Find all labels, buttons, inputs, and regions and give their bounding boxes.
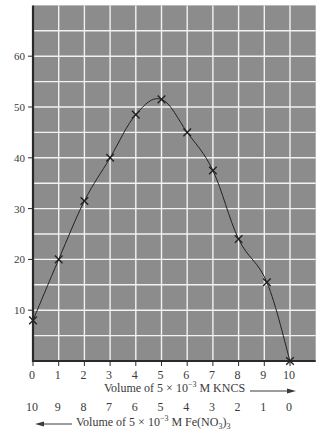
arrow-left-head-icon (35, 422, 44, 427)
y-tick-label: 10 (14, 304, 26, 316)
x-axis-label-kncs: Volume of 5 × 10−3 M KNCS (104, 380, 245, 396)
x-secondary-tick-label: 7 (106, 400, 112, 414)
x2-label-sub2: 3 (226, 422, 230, 431)
y-axis-ticks: 102030405060 (14, 50, 33, 316)
x-tick-label: 10 (283, 368, 295, 382)
x-tick-label: 0 (29, 368, 35, 382)
y-tick-label: 30 (14, 203, 26, 215)
x-secondary-tick-label: 3 (209, 400, 215, 414)
y-tick-label: 60 (14, 50, 26, 62)
x-axis-ticks: 012345678910 (29, 361, 295, 382)
x-tick-label: 2 (80, 368, 86, 382)
y-tick-label: 50 (14, 101, 26, 113)
x2-label-text: Volume of 5 × 10 (76, 415, 160, 429)
x-secondary-tick-label: 4 (183, 400, 189, 414)
arrow-right-head-icon (287, 389, 296, 394)
x2-label-mid: M Fe(NO (168, 415, 218, 429)
x-label-suffix: M KNCS (196, 381, 245, 395)
x-tick-label: 9 (260, 368, 266, 382)
chart: 102030405060 012345678910 109876543210 (0, 0, 321, 444)
x-secondary-tick-label: 6 (132, 400, 138, 414)
x-secondary-tick-label: 8 (80, 400, 86, 414)
x-secondary-tick-label: 0 (286, 400, 292, 414)
x-secondary-tick-label: 2 (235, 400, 241, 414)
x-secondary-tick-label: 10 (26, 400, 38, 414)
x-axis-label-fe-nitrate: Volume of 5 × 10−3 M Fe(NO3)3 (76, 414, 230, 431)
x-axis-secondary-ticks: 109876543210 (26, 400, 292, 414)
x-secondary-tick-label: 5 (158, 400, 164, 414)
x-tick-label: 1 (55, 368, 61, 382)
x-label-text: Volume of 5 × 10 (104, 381, 188, 395)
y-tick-label: 40 (14, 152, 26, 164)
x-secondary-tick-label: 9 (55, 400, 61, 414)
y-tick-label: 20 (14, 253, 26, 265)
x-secondary-tick-label: 1 (260, 400, 266, 414)
